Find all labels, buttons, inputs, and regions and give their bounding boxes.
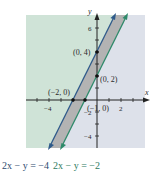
equation-label-left: 2x − y = −4	[2, 160, 49, 171]
point-label-0-2: (0, 2)	[100, 75, 118, 84]
tick-label-y-6: 6	[88, 25, 92, 33]
point-label-0-4: (0, 4)	[73, 48, 91, 57]
inequality-graph: y x 6 −2 −4 −4 2 (0, 4) (0, 2) (−2, 0) (…	[0, 0, 159, 175]
point-neg1-0	[83, 98, 87, 102]
point-label-neg1-0: (−1, 0)	[87, 104, 109, 113]
equation-label-right: 2x − y = −2	[53, 160, 100, 171]
y-axis-label: y	[87, 7, 92, 16]
tick-label-x-2: 2	[119, 105, 123, 113]
x-axis-arrow-icon	[143, 98, 150, 103]
point-label-neg2-0: (−2, 0)	[48, 88, 70, 97]
point-neg2-0	[71, 98, 75, 102]
point-0-4	[95, 50, 99, 54]
x-axis-label: x	[144, 88, 149, 97]
tick-label-y-neg4: −4	[84, 133, 92, 141]
point-0-2	[95, 74, 99, 78]
tick-label-x-neg4: −4	[44, 105, 52, 113]
